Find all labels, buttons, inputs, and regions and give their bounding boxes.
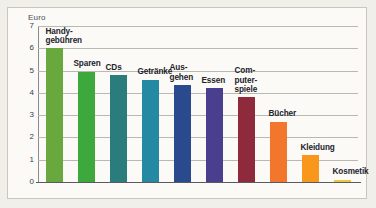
bar <box>46 48 63 182</box>
bar <box>238 97 255 182</box>
x-axis-line <box>36 182 361 183</box>
bars-layer <box>38 26 358 182</box>
bar <box>302 155 319 182</box>
bar <box>206 88 223 182</box>
y-axis-tick-label: 0 <box>30 178 34 186</box>
y-axis-tick-label: 7 <box>30 22 34 30</box>
bar <box>334 180 351 182</box>
y-axis-tick-label: 2 <box>30 133 34 141</box>
bar <box>174 85 191 182</box>
bar <box>110 75 127 182</box>
bar <box>78 72 95 182</box>
y-axis-tick-label: 4 <box>30 89 34 97</box>
bar <box>142 80 159 183</box>
chart-frame: Euro 01234567 <box>7 7 367 199</box>
y-axis-tick-label: 6 <box>30 44 34 52</box>
bar <box>270 122 287 182</box>
y-axis-tick-label: 1 <box>30 156 34 164</box>
y-axis-tick-label: 5 <box>30 67 34 75</box>
y-axis-tick-label: 3 <box>30 111 34 119</box>
